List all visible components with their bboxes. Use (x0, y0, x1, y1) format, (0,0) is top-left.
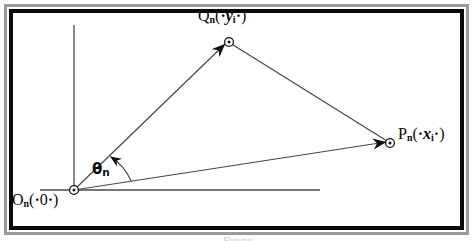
q-label-variable: y (226, 7, 233, 24)
q-label-subscript: n (210, 14, 216, 25)
theta-symbol: θ (92, 160, 102, 178)
o-label-base: O (12, 191, 24, 208)
figure-caption: Figure (0, 234, 475, 241)
p-label-variable: x (423, 125, 431, 142)
plot-surface (14, 14, 459, 225)
o-label-value: 0 (40, 191, 48, 208)
vector-diagram-svg (0, 0, 475, 241)
figure-root: Qn(·yi·) Pn(·xi·) On(·0·) θn Figure (0, 0, 475, 241)
vertex-marker-origin (70, 186, 79, 195)
q-label-variable-subscript: i (233, 14, 236, 25)
q-label-close-paren: ) (241, 7, 246, 24)
theta-angle-label: θn (92, 162, 110, 177)
vertex-marker-p (386, 139, 395, 148)
vertex-marker-q (225, 38, 234, 47)
p-point-label: Pn(·xi·) (398, 126, 445, 142)
o-label-subscript: n (24, 198, 30, 209)
origin-point-label: On(·0·) (12, 192, 58, 208)
o-label-close-paren: ) (53, 191, 58, 208)
theta-subscript: n (102, 166, 109, 178)
q-point-label: Qn(·yi·) (198, 8, 246, 24)
p-label-subscript: n (407, 132, 413, 143)
q-label-base: Q (198, 7, 210, 24)
p-label-variable-subscript: i (431, 132, 434, 143)
p-label-base: P (398, 125, 407, 142)
p-label-close-paren: ) (439, 125, 444, 142)
